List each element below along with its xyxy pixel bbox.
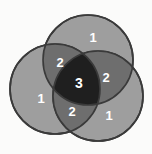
region-label-top-bottomright: 2 [102,70,109,85]
region-label-top-left: 2 [56,55,63,70]
region-label-top-only: 1 [89,30,96,45]
region-label-all-three: 3 [75,75,83,91]
region-label-left-bottomright: 2 [68,104,75,119]
region-label-left-only: 1 [37,91,44,106]
region-label-bottomright-only: 1 [105,108,112,123]
venn-diagram-canvas: 1 1 1 2 2 2 3 [0,0,152,154]
venn-diagram-figure: 1 1 1 2 2 2 3 [0,0,152,154]
